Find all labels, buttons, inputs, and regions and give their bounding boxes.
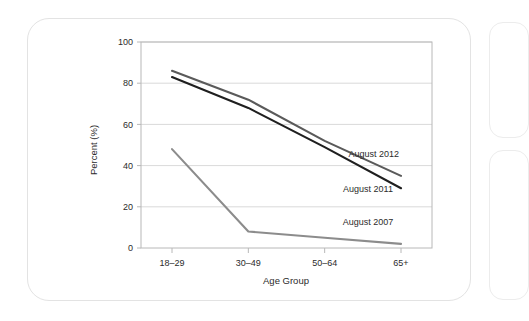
x-axis-title: Age Group bbox=[263, 275, 309, 286]
y-tick-labels: 020406080100 bbox=[118, 37, 141, 253]
y-tick-label: 20 bbox=[123, 202, 133, 212]
series-line bbox=[172, 149, 401, 244]
x-tick-label: 18–29 bbox=[159, 258, 184, 268]
series-line bbox=[172, 71, 401, 176]
x-tick-label: 50–64 bbox=[312, 258, 337, 268]
y-tick-label: 80 bbox=[123, 78, 133, 88]
x-tick-label: 30–49 bbox=[236, 258, 261, 268]
series-label: August 2012 bbox=[349, 149, 400, 159]
series-label: August 2007 bbox=[343, 217, 394, 227]
series-label: August 2011 bbox=[343, 184, 393, 194]
x-tick-marks bbox=[172, 248, 401, 253]
y-tick-label: 100 bbox=[118, 37, 133, 47]
y-tick-label: 60 bbox=[123, 120, 133, 130]
y-axis-title: Percent (%) bbox=[88, 125, 99, 175]
y-tick-label: 40 bbox=[123, 161, 133, 171]
series-line bbox=[172, 77, 401, 188]
x-tick-label: 65+ bbox=[393, 258, 408, 268]
y-tick-label: 0 bbox=[128, 243, 133, 253]
x-tick-labels: 18–2930–4950–6465+ bbox=[159, 258, 408, 268]
